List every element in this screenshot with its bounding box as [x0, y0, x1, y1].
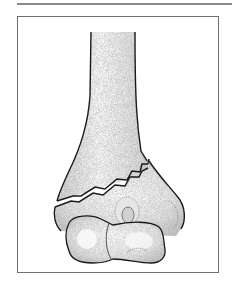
humerus-shaft-fragment — [57, 32, 153, 201]
fracture-illustration — [18, 17, 218, 272]
illustration-frame — [17, 16, 219, 273]
top-rule-divider — [17, 3, 232, 5]
